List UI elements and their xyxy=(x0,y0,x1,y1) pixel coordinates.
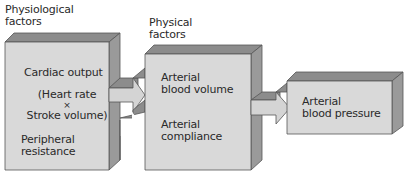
peripheral-resistance-label: Peripheral resistance xyxy=(21,134,75,158)
physical-box xyxy=(145,45,262,170)
header-line: factors xyxy=(5,16,74,28)
cardiac-output-label: Cardiac output xyxy=(24,67,103,79)
header-line: factors xyxy=(149,29,192,41)
label-line: blood volume xyxy=(161,84,233,96)
cardiac-output-formula: (Heart rate × Stroke volume) xyxy=(18,89,116,122)
label-line: resistance xyxy=(21,146,75,158)
arrow-lower-icon xyxy=(120,100,145,160)
label-line: blood pressure xyxy=(302,108,381,120)
physiological-header: Physiological factors xyxy=(5,4,74,28)
arterial-blood-volume-label: Arterial blood volume xyxy=(161,72,233,96)
physical-header: Physical factors xyxy=(149,17,192,41)
arterial-blood-pressure-label: Arterial blood pressure xyxy=(302,96,381,120)
label-line: compliance xyxy=(161,131,222,143)
arterial-compliance-label: Arterial compliance xyxy=(161,119,222,143)
formula-line: Stroke volume) xyxy=(18,110,116,122)
